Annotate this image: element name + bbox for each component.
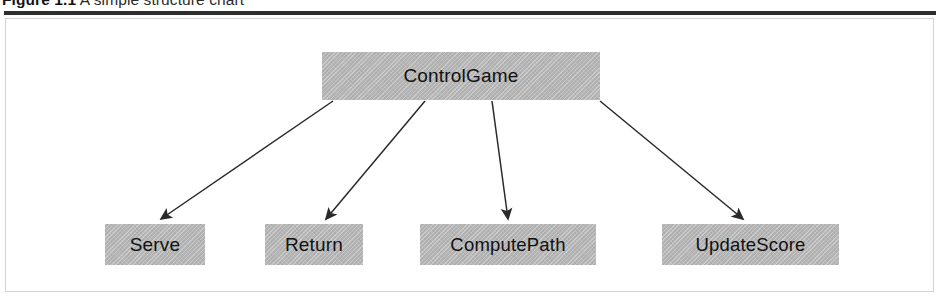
header-rule <box>4 11 936 15</box>
node-controlgame[interactable]: ControlGame <box>322 52 600 100</box>
node-controlgame-label: ControlGame <box>403 65 518 87</box>
figure-number: Figure 1.1 <box>2 0 76 8</box>
figure-caption: Figure 1.1 A simple structure chart <box>2 0 244 9</box>
node-computepath[interactable]: ComputePath <box>420 224 596 265</box>
figure-caption-strip: Figure 1.1 A simple structure chart <box>0 0 940 11</box>
node-return-label: Return <box>285 234 343 256</box>
figure-caption-title: A simple structure chart <box>80 0 244 8</box>
node-updatescore-label: UpdateScore <box>695 234 805 256</box>
node-computepath-label: ComputePath <box>450 234 565 256</box>
node-serve[interactable]: Serve <box>105 224 205 265</box>
node-updatescore[interactable]: UpdateScore <box>662 224 839 265</box>
node-return[interactable]: Return <box>265 224 363 265</box>
node-serve-label: Serve <box>130 234 181 256</box>
